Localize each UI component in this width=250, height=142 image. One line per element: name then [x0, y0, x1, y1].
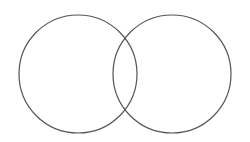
- right-circle: [113, 15, 231, 133]
- venn-svg: [0, 0, 250, 142]
- left-circle: [19, 15, 137, 133]
- venn-diagram: [0, 0, 250, 142]
